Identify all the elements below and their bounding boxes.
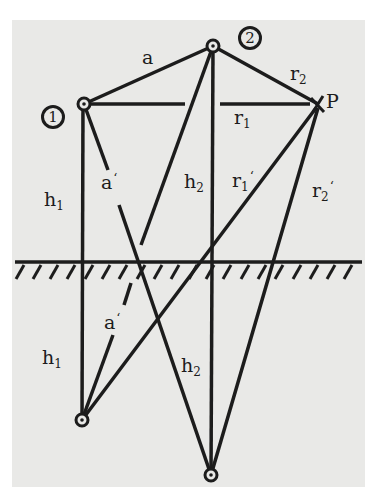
label-a-prime-upper-text: a	[101, 171, 112, 193]
label-a-prime-lower-text: a	[104, 311, 115, 333]
source-2-marker: 2	[238, 26, 262, 50]
label-r1-text: r	[234, 106, 243, 128]
label-a-prime-lower: a‘	[104, 312, 120, 332]
label-a: a	[142, 48, 153, 67]
label-r2: r2	[290, 64, 307, 86]
label-h1-upper-sub: 1	[56, 199, 64, 213]
ground-hatching	[16, 265, 352, 279]
label-P-text: P	[326, 90, 339, 112]
label-h2-lower: h2	[181, 356, 201, 378]
label-h1-lower: h1	[42, 348, 62, 370]
source-1-marker-label: 1	[48, 108, 58, 126]
geometry-canvas	[0, 0, 378, 494]
label-h1-lower-text: h	[42, 346, 54, 368]
label-r1-prime-text: r	[232, 169, 241, 191]
label-r1-sub: 1	[243, 117, 251, 131]
label-r1-prime: r1‘	[232, 170, 254, 193]
label-h2-lower-text: h	[181, 354, 193, 376]
label-h2-lower-sub: 2	[193, 365, 201, 379]
source-1-marker: 1	[41, 105, 65, 129]
segment-a-prime-1-bottom	[119, 205, 211, 475]
label-P: P	[326, 92, 339, 111]
label-a-prime-upper-mark: ‘	[113, 171, 117, 186]
label-a-prime-upper: a‘	[101, 172, 117, 192]
label-r2-prime-mark: ‘	[330, 179, 334, 194]
segment-a-prime-2-bottom	[82, 335, 113, 420]
segment-r2-prime	[211, 108, 318, 475]
label-h1-upper: h1	[44, 190, 64, 212]
label-r1-prime-mark: ‘	[250, 169, 254, 184]
label-r2-prime: r2‘	[312, 180, 334, 203]
label-r1-prime-sub: 1	[241, 180, 249, 194]
label-h2-upper: h2	[184, 172, 204, 194]
segment-a-prime-1-top	[84, 104, 108, 170]
label-h2-upper-text: h	[184, 170, 196, 192]
label-h1-lower-sub: 1	[54, 357, 62, 371]
label-r2-prime-sub: 2	[321, 190, 329, 204]
segment-a-prime-2-top	[141, 46, 213, 245]
label-r2-text: r	[290, 62, 299, 84]
source-2-marker-label: 2	[245, 29, 255, 47]
label-a-text: a	[142, 46, 153, 68]
label-r1: r1	[234, 108, 251, 130]
label-a-prime-lower-mark: ‘	[116, 311, 120, 326]
label-h2-upper-sub: 2	[196, 181, 204, 195]
label-r2-prime-text: r	[312, 179, 321, 201]
segment-a-prime-2-mid	[124, 283, 131, 305]
label-h1-upper-text: h	[44, 188, 56, 210]
label-r2-sub: 2	[299, 73, 307, 87]
